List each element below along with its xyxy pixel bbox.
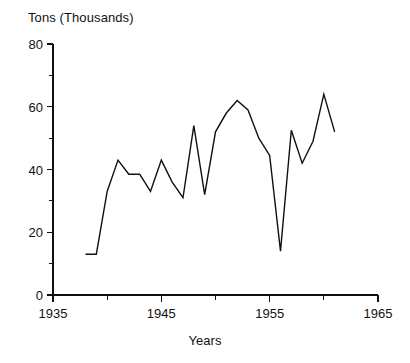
line-chart: Tons (Thousands) Years 020406080 1935194… — [0, 0, 410, 363]
axis-lines — [53, 44, 378, 295]
plot-area — [0, 0, 410, 363]
axis-ticks — [47, 44, 378, 302]
data-series-line — [86, 94, 335, 254]
